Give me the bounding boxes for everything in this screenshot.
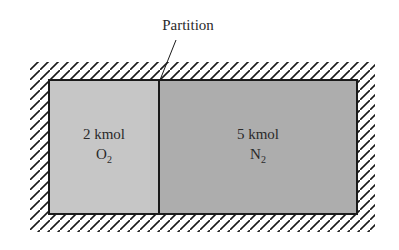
left-chamber-amount: 2 kmol xyxy=(54,126,154,143)
left-gas-subscript: 2 xyxy=(107,154,112,165)
right-gas-symbol: N xyxy=(250,146,261,162)
left-gas-symbol: O xyxy=(96,146,107,162)
right-chamber-gas: N2 xyxy=(208,146,308,164)
left-chamber-gas: O2 xyxy=(54,146,154,164)
tank-diagram xyxy=(0,0,399,250)
right-gas-subscript: 2 xyxy=(261,154,266,165)
right-chamber-amount: 5 kmol xyxy=(208,126,308,143)
partition-label: Partition xyxy=(148,17,228,34)
